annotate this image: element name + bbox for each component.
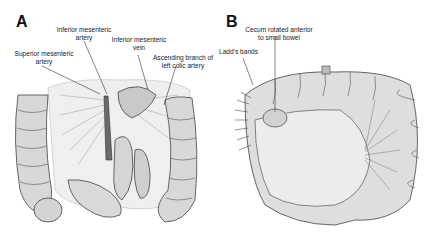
panel-a: A Superior mesenteric artery Inferior me… — [0, 0, 215, 237]
label-cecum-rotated-anterior: Cecum rotated anterior to small bowel — [239, 26, 319, 41]
panel-b: B Cecum rotated anterior to small bowel … — [215, 0, 429, 237]
label-superior-mesenteric-artery: Superior mesenteric artery — [4, 50, 84, 65]
label-ascending-branch-left-colic-artery: Ascending branch of left colic artery — [148, 54, 218, 69]
label-inferior-mesenteric-vein: Inferior mesenteric vein — [108, 36, 170, 51]
panel-letter-a: A — [16, 14, 28, 30]
label-ladds-bands: Ladd's bands — [219, 48, 269, 56]
panel-letter-b: B — [226, 14, 238, 30]
